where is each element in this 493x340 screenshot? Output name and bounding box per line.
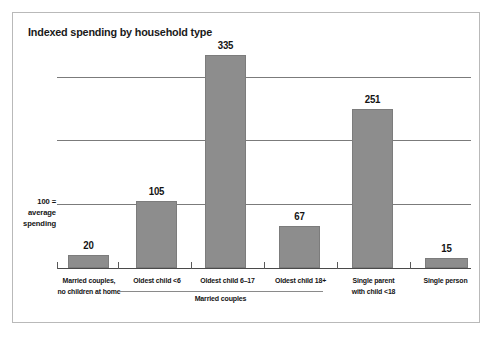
bar-oldest-child-18-plus	[279, 226, 320, 268]
category-label-line-1: Oldest child 6–17	[193, 276, 262, 287]
y-axis-reference-note: 100 = average spending	[16, 196, 56, 229]
category-label-line-1: Married couples,	[45, 276, 132, 287]
bar-oldest-child-6-17	[205, 55, 246, 268]
bar-value-single-person: 15	[423, 242, 470, 254]
axis-tick	[410, 262, 411, 269]
y-axis-note-line-3: spending	[16, 218, 56, 229]
plot-area: 20 105 335 67 251 15 100 = average spend…	[0, 0, 493, 340]
group-bracket-line	[118, 291, 323, 292]
y-axis-note-line-2: average	[16, 207, 56, 218]
axis-tick	[191, 262, 192, 269]
category-label-oldest-child-under-6: Oldest child <6	[124, 276, 191, 287]
bar-value-oldest-child-under-6: 105	[133, 185, 180, 197]
axis-tick	[118, 262, 119, 269]
bar-single-person	[425, 258, 468, 268]
bar-value-married-couples-no-children: 20	[65, 239, 112, 251]
axis-tick	[264, 262, 265, 269]
category-label-line-1: Single parent	[339, 276, 408, 287]
category-label-line-2: with child <18	[339, 287, 408, 298]
category-label-married-couples-no-children: Married couples, no children at home	[45, 276, 132, 297]
chart-figure: Indexed spending by household type 20 10…	[0, 0, 493, 340]
y-axis-note-line-1: 100 =	[16, 196, 56, 207]
bar-single-parent-with-child	[352, 109, 393, 268]
category-label-oldest-child-18-plus: Oldest child 18+	[266, 276, 335, 287]
category-label-single-person: Single person	[412, 276, 479, 287]
category-label-line-1: Oldest child <6	[124, 276, 191, 287]
gridline-200	[57, 140, 471, 141]
axis-tick	[337, 262, 338, 269]
category-label-line-1: Oldest child 18+	[266, 276, 335, 287]
group-bracket-label: Married couples	[123, 294, 318, 303]
category-label-single-parent-with-child: Single parent with child <18	[339, 276, 408, 297]
gridline-300	[57, 77, 471, 78]
category-label-oldest-child-6-17: Oldest child 6–17	[193, 276, 262, 287]
gridline-100	[57, 204, 471, 205]
category-label-line-1: Single person	[412, 276, 479, 287]
bar-married-couples-no-children	[68, 255, 109, 268]
bar-value-oldest-child-6-17: 335	[202, 39, 249, 51]
bar-oldest-child-under-6	[136, 201, 177, 268]
bar-value-single-parent-with-child: 251	[349, 93, 396, 105]
bar-value-oldest-child-18-plus: 67	[276, 210, 323, 222]
axis-tick	[57, 262, 58, 269]
